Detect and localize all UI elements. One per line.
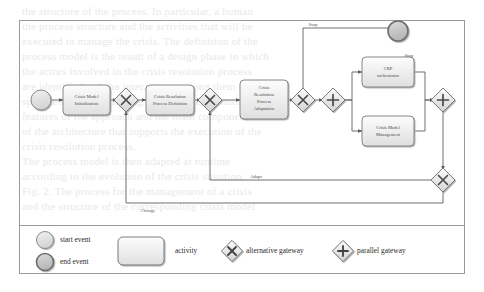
legend-label-activity: activity: [175, 246, 197, 255]
activity-crp-orchestrator: CRP orchestrator: [362, 57, 414, 87]
flow-a5-to-g5: [414, 100, 434, 131]
activity-label: Crisis Model: [75, 94, 100, 99]
activity-label: Crisis Model: [376, 125, 401, 130]
activity-label-cont3: Adaptation: [254, 106, 275, 111]
activity-label-cont: orchestrator: [377, 73, 399, 78]
activity-label-cont: Initialization: [75, 101, 99, 106]
diagram-root: Crisis Model Initialization Crisis Resol…: [0, 0, 484, 292]
flow-g4-to-a4: [342, 72, 362, 100]
flow-label-adapt: Adapt: [250, 174, 262, 179]
legend-label-alternative-gateway: alternative gateway: [246, 246, 304, 255]
legend-parallel-gateway-icon: [332, 240, 353, 261]
activity-crisis-resolution-process-definition: Crisis Resolution Process Definition: [146, 85, 194, 115]
flow-label-stop-top: Stop: [309, 22, 318, 27]
flow-g4-to-a5: [342, 100, 362, 131]
legend-end-event-icon: [37, 254, 54, 271]
start-event: [31, 90, 51, 110]
gateway-alternative-g1: [114, 88, 138, 112]
activity-label-cont2: Process: [257, 99, 271, 104]
activity-crisis-model-initialization: Crisis Model Initialization: [63, 85, 110, 115]
activity-label-cont: Process Definition: [153, 101, 188, 106]
gateway-parallel-g5: [431, 88, 455, 112]
end-event: [388, 21, 408, 41]
activity-label-cont: Management: [376, 132, 401, 137]
flow-label-change: Change: [141, 208, 156, 213]
legend-label-start-event: start event: [60, 235, 92, 244]
legend-start-event-icon: [37, 232, 54, 249]
activity-label-cont: Resolution: [254, 92, 275, 97]
legend: start event end event activity alternati…: [37, 232, 406, 271]
flow-a4-to-g5: [414, 72, 434, 100]
flow-label-stop-end: Stop: [405, 53, 414, 58]
gateway-alternative-g6: [431, 168, 455, 192]
gateway-parallel-g4: [321, 88, 345, 112]
legend-label-parallel-gateway: parallel gateway: [357, 246, 406, 255]
activity-crisis-model-management: Crisis Model Management: [362, 116, 414, 146]
legend-alternative-gateway-icon: [221, 240, 242, 261]
activity-crisis-resolution-process-adaptation: Crisis Resolution Process Adaptation: [240, 80, 288, 119]
legend-label-end-event: end event: [60, 257, 89, 266]
legend-activity-icon: [118, 237, 164, 265]
activity-label: Crisis Resolution: [154, 94, 186, 99]
gateway-alternative-g2: [198, 88, 222, 112]
activity-label: CRP: [384, 66, 393, 71]
activity-label: Crisis: [259, 85, 270, 90]
gateway-alternative-g3: [291, 88, 315, 112]
